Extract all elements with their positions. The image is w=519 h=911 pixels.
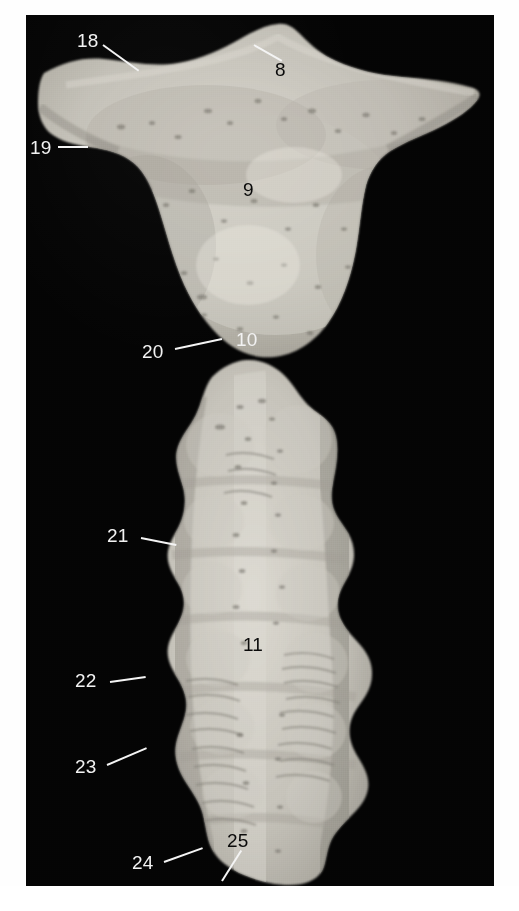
label-23: 23 — [75, 757, 97, 776]
label-18: 18 — [77, 31, 99, 50]
label-24: 24 — [132, 853, 154, 872]
leader-19 — [58, 146, 88, 148]
label-25: 25 — [227, 831, 249, 850]
label-10: 10 — [236, 330, 258, 349]
label-9: 9 — [243, 180, 254, 199]
label-21: 21 — [107, 526, 129, 545]
page-bottom-margin — [0, 886, 519, 911]
label-19: 19 — [30, 138, 52, 157]
lower-specimen — [26, 355, 494, 886]
photographic-plate: 1881991020211122232524 — [26, 15, 494, 886]
figure-plate-root: 1881991020211122232524 — [0, 0, 519, 911]
label-20: 20 — [142, 342, 164, 361]
label-11: 11 — [243, 635, 263, 654]
upper-specimen — [26, 15, 494, 395]
label-22: 22 — [75, 671, 97, 690]
label-8: 8 — [275, 60, 286, 79]
